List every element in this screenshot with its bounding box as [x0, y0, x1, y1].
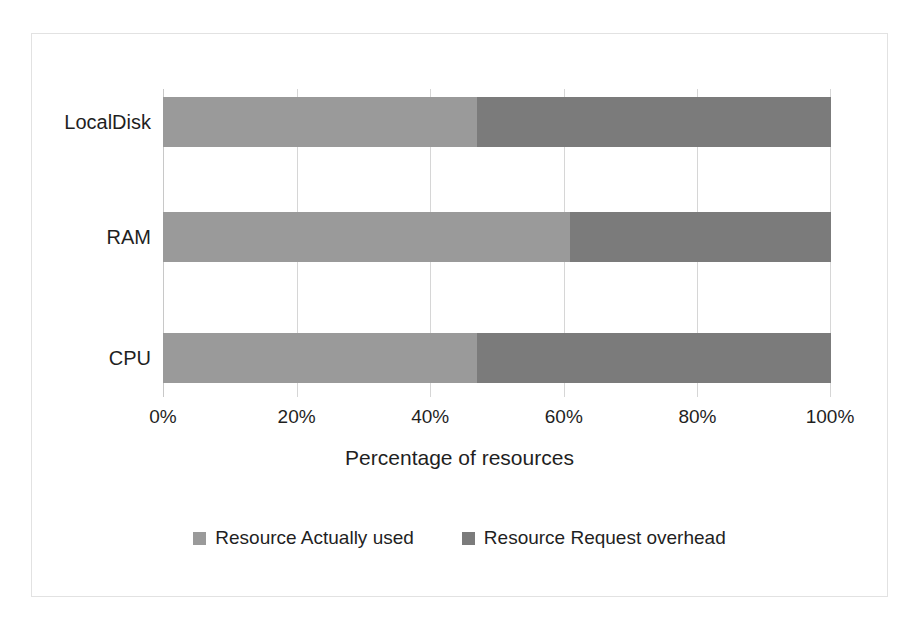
category-label-ram: RAM	[0, 212, 151, 262]
plot-area: LocalDisk RAM CPU	[163, 89, 831, 397]
bar-row: LocalDisk	[163, 97, 831, 147]
legend-item-overhead[interactable]: Resource Request overhead	[462, 527, 726, 549]
x-tick-label: 0%	[149, 406, 176, 428]
category-label-localdisk: LocalDisk	[0, 97, 151, 147]
x-tick-label: 60%	[545, 406, 583, 428]
bar-segment-used	[163, 333, 477, 383]
x-tick-label: 20%	[278, 406, 316, 428]
legend-swatch-icon	[193, 532, 206, 545]
bar-segment-used	[163, 97, 477, 147]
chart-legend: Resource Actually used Resource Request …	[32, 527, 887, 549]
x-tick-label: 80%	[678, 406, 716, 428]
bar-segment-overhead	[477, 333, 831, 383]
legend-label: Resource Actually used	[215, 527, 414, 549]
x-tick-label: 40%	[411, 406, 449, 428]
chart-frame: LocalDisk RAM CPU 0% 20% 40% 60% 80% 100…	[31, 33, 888, 597]
x-tick-label: 100%	[806, 406, 855, 428]
legend-label: Resource Request overhead	[484, 527, 726, 549]
legend-item-used[interactable]: Resource Actually used	[193, 527, 414, 549]
x-axis-title: Percentage of resources	[32, 446, 887, 470]
bar-row: CPU	[163, 333, 831, 383]
bar-segment-used	[163, 212, 570, 262]
legend-swatch-icon	[462, 532, 475, 545]
category-label-cpu: CPU	[0, 333, 151, 383]
bar-segment-overhead	[477, 97, 831, 147]
bar-segment-overhead	[570, 212, 831, 262]
bar-row: RAM	[163, 212, 831, 262]
x-axis-tick-labels: 0% 20% 40% 60% 80% 100%	[163, 406, 831, 436]
